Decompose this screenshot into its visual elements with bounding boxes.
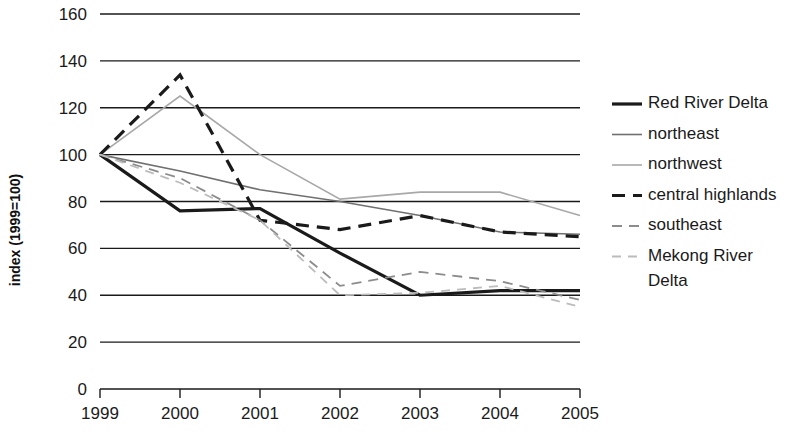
data-series [100, 75, 580, 307]
y-axis-title: index (1999=100) [7, 174, 23, 286]
y-tick-label: 140 [59, 52, 87, 71]
series-line-northwest [100, 96, 580, 216]
legend-label: northeast [648, 124, 719, 143]
y-tick-label: 20 [68, 333, 87, 352]
series-line-southeast [100, 155, 580, 300]
y-tick-label: 120 [59, 99, 87, 118]
x-axis [100, 389, 580, 398]
line-chart: 020406080100120140160 199920002001200220… [0, 0, 803, 432]
chart-canvas: 020406080100120140160 199920002001200220… [0, 0, 803, 432]
chart-legend: Red River Deltanortheastnorthwestcentral… [612, 93, 777, 290]
x-tick-label: 2003 [401, 404, 439, 423]
legend-label-wrap: Delta [648, 271, 688, 290]
x-axis-tick-labels: 1999200020012002200320042005 [81, 404, 599, 423]
x-tick-label: 2001 [241, 404, 279, 423]
y-tick-label: 160 [59, 5, 87, 24]
legend-label: central highlands [648, 185, 777, 204]
gridlines [100, 14, 580, 342]
legend-label: northwest [648, 154, 722, 173]
x-tick-label: 1999 [81, 404, 119, 423]
y-tick-label: 40 [68, 286, 87, 305]
y-tick-label: 60 [68, 239, 87, 258]
y-tick-label: 80 [68, 193, 87, 212]
x-tick-label: 2004 [481, 404, 519, 423]
y-tick-label: 100 [59, 146, 87, 165]
x-tick-label: 2005 [561, 404, 599, 423]
x-tick-label: 2002 [321, 404, 359, 423]
x-tick-label: 2000 [161, 404, 199, 423]
legend-label: southeast [648, 215, 722, 234]
legend-label: Red River Delta [648, 93, 769, 112]
series-line-central-highlands [100, 75, 580, 237]
y-axis-tick-labels: 020406080100120140160 [59, 5, 87, 399]
y-tick-label: 0 [78, 380, 87, 399]
legend-label: Mekong River [648, 246, 753, 265]
